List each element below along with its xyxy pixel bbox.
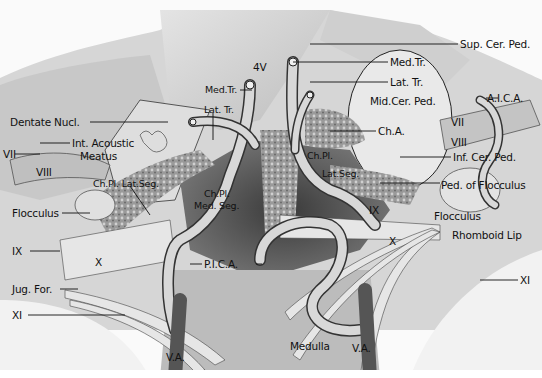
label-lat-seg-right: Lat.Seg.: [322, 169, 359, 179]
label-flocculus-left: Flocculus: [12, 208, 59, 219]
label-ch-pl-lat-seg: Ch.Pl. Lat.Seg.: [93, 179, 159, 189]
label-jug-for: Jug. For.: [12, 284, 52, 295]
label-medulla: Medulla: [290, 341, 330, 352]
label-inf-cer-ped: Inf. Cer. Ped.: [453, 152, 516, 163]
label-int-acoustic-2: Meatus: [80, 151, 117, 162]
label-xi-right: XI: [520, 275, 530, 286]
label-vii-right: VII: [451, 117, 464, 128]
label-ch-pl-med-seg-1: Ch.Pl.: [204, 189, 230, 199]
label-sup-cer-ped: Sup. Cer. Ped.: [460, 39, 530, 50]
label-xi-left: XI: [12, 310, 22, 321]
label-vii-left: VII: [3, 149, 16, 160]
label-x-right: X: [389, 236, 396, 247]
label-dentate-nucl: Dentate Nucl.: [10, 117, 80, 128]
label-flocculus-right: Flocculus: [434, 211, 481, 222]
label-ix-left: IX: [12, 246, 22, 257]
label-viii-left: VIII: [36, 167, 52, 178]
label-ch-pl-right: Ch.Pl.: [307, 151, 333, 161]
label-aica: A.I.C.A.: [487, 93, 523, 104]
label-pica: P.I.C.A.: [204, 259, 238, 270]
label-mid-cer-ped: Mid.Cer. Ped.: [370, 96, 436, 107]
label-va-right: V.A.: [352, 343, 371, 354]
label-lat-tr-left: Lat. Tr.: [204, 105, 234, 115]
label-med-tr-left: Med.Tr.: [205, 85, 237, 95]
label-x-left: X: [95, 257, 102, 268]
label-rhomboid-lip: Rhomboid Lip: [452, 230, 522, 241]
anatomical-illustration: Sup. Cer. Ped. Med.Tr. 4V Lat. Tr. Med.T…: [0, 0, 542, 378]
label-va-left: V.A.: [166, 352, 185, 363]
label-ch-pl-med-seg-2: Med. Seg.: [194, 201, 239, 211]
label-ix-right: IX: [369, 205, 379, 216]
label-med-tr-right: Med.Tr.: [390, 57, 426, 68]
label-ped-of-flocculus: Ped. of Flocculus: [441, 180, 525, 191]
label-viii-right: VIII: [451, 137, 467, 148]
label-int-acoustic-1: Int. Acoustic: [72, 138, 134, 149]
label-4v: 4V: [253, 62, 266, 73]
label-ch-a: Ch.A.: [378, 126, 405, 137]
label-lat-tr-right: Lat. Tr.: [390, 77, 423, 88]
